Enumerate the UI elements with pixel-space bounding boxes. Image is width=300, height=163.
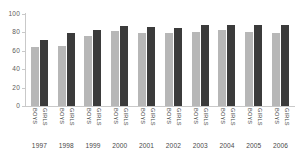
x-axis-line	[25, 106, 295, 107]
x-axis-category-labels: 1997199819992000200120022003200420052006	[26, 143, 294, 150]
bar-group	[53, 14, 80, 106]
series-tick-label-boys-2005: BOYS	[244, 108, 253, 138]
series-tick-label-boys-2004: BOYS	[217, 108, 226, 138]
series-label-group: BOYSGIRLS	[214, 108, 241, 138]
series-label-group: BOYSGIRLS	[53, 108, 80, 138]
series-tick-label-boys-1998: BOYS	[57, 108, 66, 138]
year-label-2003: 2003	[187, 143, 214, 150]
series-label-group: BOYSGIRLS	[267, 108, 294, 138]
bar-boys-1999	[84, 36, 92, 106]
series-label-group: BOYSGIRLS	[160, 108, 187, 138]
bar-chart: 020406080100 BOYSGIRLSBOYSGIRLSBOYSGIRLS…	[0, 0, 300, 163]
series-tick-label-boys-2006: BOYS	[271, 108, 280, 138]
y-tick-mark	[22, 88, 25, 89]
series-tick-label-boys-1997: BOYS	[30, 108, 39, 138]
bar-boys-2001	[138, 33, 146, 106]
bar-boys-1997	[31, 47, 39, 106]
series-tick-label-boys-2000: BOYS	[110, 108, 119, 138]
series-label-group: BOYSGIRLS	[240, 108, 267, 138]
bar-girls-2003	[201, 25, 209, 106]
series-tick-label-boys-1999: BOYS	[83, 108, 92, 138]
series-tick-label-girls-1997: GIRLS	[40, 108, 49, 138]
y-tick-label: 80	[0, 29, 20, 36]
bar-group	[133, 14, 160, 106]
series-label-group: BOYSGIRLS	[106, 108, 133, 138]
series-tick-labels: BOYSGIRLSBOYSGIRLSBOYSGIRLSBOYSGIRLSBOYS…	[26, 108, 294, 138]
year-label-2000: 2000	[106, 143, 133, 150]
y-tick-label: 0	[0, 103, 20, 110]
bar-group	[80, 14, 107, 106]
bar-girls-2002	[174, 28, 182, 106]
year-label-2005: 2005	[240, 143, 267, 150]
series-tick-label-girls-2000: GIRLS	[120, 108, 129, 138]
year-label-1999: 1999	[80, 143, 107, 150]
bar-group	[160, 14, 187, 106]
bar-group	[26, 14, 53, 106]
year-label-1997: 1997	[26, 143, 53, 150]
series-tick-label-girls-2004: GIRLS	[227, 108, 236, 138]
bar-group	[187, 14, 214, 106]
y-tick-mark	[22, 106, 25, 107]
bar-group	[267, 14, 294, 106]
series-tick-label-girls-2001: GIRLS	[147, 108, 156, 138]
bar-girls-2000	[120, 26, 128, 106]
y-tick-mark	[22, 32, 25, 33]
y-tick-label: 60	[0, 48, 20, 55]
series-tick-label-girls-1998: GIRLS	[67, 108, 76, 138]
bar-girls-2005	[254, 25, 262, 106]
y-tick-mark	[22, 14, 25, 15]
bar-boys-1998	[58, 46, 66, 106]
bar-girls-1998	[67, 33, 75, 106]
series-tick-label-girls-2005: GIRLS	[254, 108, 263, 138]
bar-group	[106, 14, 133, 106]
year-label-1998: 1998	[53, 143, 80, 150]
year-label-2006: 2006	[267, 143, 294, 150]
series-tick-label-girls-2003: GIRLS	[201, 108, 210, 138]
bar-boys-2004	[218, 30, 226, 106]
bar-boys-2005	[245, 32, 253, 106]
bar-girls-1997	[40, 40, 48, 106]
year-label-2004: 2004	[214, 143, 241, 150]
year-label-2002: 2002	[160, 143, 187, 150]
bar-boys-2006	[272, 33, 280, 106]
series-tick-label-girls-1999: GIRLS	[93, 108, 102, 138]
series-tick-label-boys-2003: BOYS	[191, 108, 200, 138]
bar-group	[214, 14, 241, 106]
y-tick-label: 40	[0, 66, 20, 73]
series-label-group: BOYSGIRLS	[187, 108, 214, 138]
y-tick-label: 100	[0, 11, 20, 18]
bar-groups	[26, 14, 294, 106]
y-tick-mark	[22, 69, 25, 70]
bar-girls-1999	[93, 30, 101, 106]
series-tick-label-girls-2002: GIRLS	[174, 108, 183, 138]
series-tick-label-boys-2002: BOYS	[164, 108, 173, 138]
bar-girls-2001	[147, 27, 155, 106]
bar-boys-2000	[111, 31, 119, 106]
bar-girls-2006	[281, 25, 289, 106]
series-label-group: BOYSGIRLS	[26, 108, 53, 138]
year-label-2001: 2001	[133, 143, 160, 150]
series-label-group: BOYSGIRLS	[80, 108, 107, 138]
y-tick-label: 20	[0, 85, 20, 92]
bar-girls-2004	[227, 25, 235, 106]
series-label-group: BOYSGIRLS	[133, 108, 160, 138]
bar-group	[240, 14, 267, 106]
bar-boys-2003	[192, 32, 200, 106]
bar-boys-2002	[165, 33, 173, 106]
series-tick-label-girls-2006: GIRLS	[281, 108, 290, 138]
y-tick-mark	[22, 51, 25, 52]
series-tick-label-boys-2001: BOYS	[137, 108, 146, 138]
